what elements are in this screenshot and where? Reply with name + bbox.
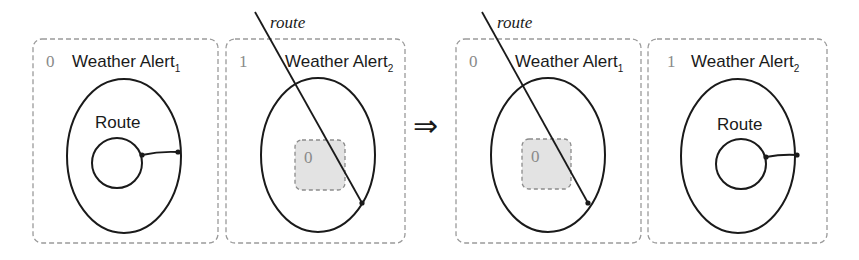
panel-title: Weather Alert1 xyxy=(72,52,181,74)
panel-before-1: 1 Weather Alert2 0 route xyxy=(226,12,405,243)
panel-title: Weather Alert2 xyxy=(691,52,800,74)
panel-index: 0 xyxy=(469,52,478,71)
route-label: route xyxy=(497,13,533,32)
connector-dot xyxy=(763,154,768,159)
shape-label-route: Route xyxy=(717,115,762,134)
connector-dot xyxy=(794,152,799,157)
transition-arrow-icon: ⇒ xyxy=(413,108,438,143)
diagram-canvas: 0 Weather Alert1 Route 1 Weather Alert2 … xyxy=(0,0,859,260)
panel-after-1: 1 Weather Alert2 Route xyxy=(648,39,827,243)
inner-box-index: 0 xyxy=(531,147,540,166)
panel-index: 0 xyxy=(46,52,55,71)
connector-dot xyxy=(175,149,180,154)
panel-after-0: 0 Weather Alert1 0 route xyxy=(456,12,641,243)
inner-box xyxy=(522,139,571,189)
panel-index: 1 xyxy=(239,52,248,71)
inner-box xyxy=(295,140,345,190)
route-end-dot xyxy=(585,200,590,205)
inner-box-index: 0 xyxy=(304,148,313,167)
inner-circle xyxy=(716,139,766,189)
connector-dot xyxy=(139,152,144,157)
panel-before-0: 0 Weather Alert1 Route xyxy=(33,39,218,243)
outer-oval xyxy=(67,79,181,233)
connector-line xyxy=(142,152,178,155)
panel-index: 1 xyxy=(667,52,676,71)
inner-circle xyxy=(92,138,142,188)
panel-title: Weather Alert1 xyxy=(515,52,624,74)
connector-line xyxy=(766,155,797,157)
panel-title: Weather Alert2 xyxy=(285,52,394,74)
route-label: route xyxy=(270,13,306,32)
route-end-dot xyxy=(359,200,364,205)
shape-label-route: Route xyxy=(95,113,140,132)
